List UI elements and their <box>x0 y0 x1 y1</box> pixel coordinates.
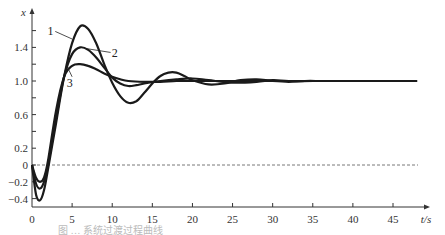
series-3-label: 3 <box>67 76 73 90</box>
y-axis-label: x <box>20 6 26 18</box>
y-tick-label: 1.0 <box>14 75 28 87</box>
line-chart: −0.4−0.200.20.61.01.4051015202530354045t… <box>0 0 445 235</box>
x-axis-label: t/s <box>421 213 431 225</box>
x-axis-arrow-icon <box>424 205 430 210</box>
y-axis-arrow-icon <box>30 8 35 14</box>
y-tick-label: −0.2 <box>8 176 28 188</box>
y-tick-label: 1.4 <box>14 41 28 53</box>
series-3-curve <box>32 64 417 182</box>
series-1-label: 1 <box>47 24 53 38</box>
x-tick-label: 45 <box>388 213 400 225</box>
y-tick-label: 0.6 <box>14 109 28 121</box>
figure-caption: 图 … 系统过渡过程曲线 <box>58 222 163 235</box>
y-tick-label: 0.2 <box>14 142 28 154</box>
x-tick-label: 20 <box>187 213 199 225</box>
x-tick-label: 35 <box>307 213 319 225</box>
y-tick-label: 0 <box>23 159 29 171</box>
y-tick-label: −0.4 <box>8 193 28 205</box>
x-tick-label: 40 <box>347 213 359 225</box>
series-2-curve <box>32 47 417 188</box>
x-tick-label: 0 <box>29 213 35 225</box>
series-2-label: 2 <box>112 46 118 60</box>
x-tick-label: 30 <box>267 213 279 225</box>
series-1-leader-line <box>55 31 72 39</box>
x-tick-label: 25 <box>227 213 239 225</box>
